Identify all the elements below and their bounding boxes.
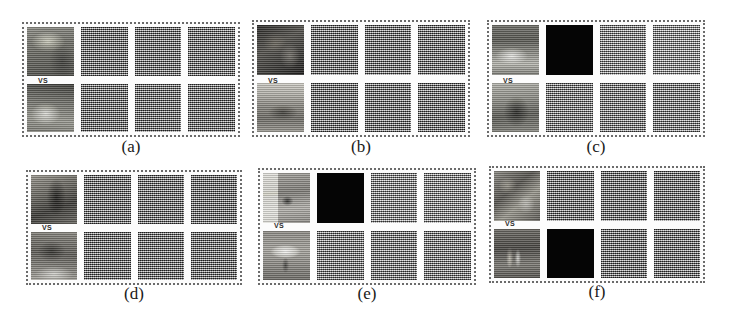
tile-f-row1-1-photo-top [494, 171, 540, 221]
panel-caption-b: (b) [252, 138, 470, 155]
tile-f-row1-2-saliency-map-1 [547, 171, 593, 221]
tile-grid-a [27, 27, 235, 132]
tile-grid-b [257, 25, 465, 132]
tile-c-row1-3-saliency-map-1 [600, 25, 647, 75]
tile-c-row2-3-saliency-map-4 [600, 83, 647, 133]
panel-grid: VS(a)VS(b)VS(c)VS(d)VS(e)VS(f) [0, 0, 731, 318]
tile-d-row2-3-saliency-map-5 [138, 232, 184, 281]
vs-label-e: VS [274, 222, 284, 229]
tile-b-row1-3-saliency-map-2 [365, 25, 412, 75]
tile-e-row2-4-saliency-map-5 [424, 231, 471, 281]
panel-caption-f: (f) [489, 283, 705, 300]
tile-a-row2-4-saliency-map-6 [188, 84, 235, 133]
tile-a-row2-3-saliency-map-5 [135, 84, 182, 133]
vs-label-d: VS [42, 224, 52, 231]
tile-a-row1-3-saliency-map-2 [135, 27, 182, 76]
tile-f-row1-3-saliency-map-2 [601, 171, 647, 221]
panel-e [258, 168, 476, 285]
tile-f-row2-1-photo-bottom [494, 229, 540, 279]
tile-e-row1-2-blank-map-1 [317, 173, 364, 223]
tile-c-row2-4-saliency-map-5 [653, 83, 700, 133]
panel-a [22, 22, 240, 137]
tile-e-row2-1-photo-bottom [263, 231, 310, 281]
tile-b-row2-4-saliency-map-6 [418, 83, 465, 133]
tile-d-row1-1-photo-top [31, 175, 77, 224]
tile-a-row2-2-saliency-map-4 [81, 84, 128, 133]
tile-a-row2-1-photo-bottom [27, 84, 74, 133]
vs-label-c: VS [503, 77, 513, 84]
panel-b [252, 20, 470, 137]
tile-c-row1-2-blank-map-1 [546, 25, 593, 75]
tile-c-row2-1-photo-bottom [492, 83, 539, 133]
panel-caption-a: (a) [22, 138, 240, 155]
panel-caption-c: (c) [487, 138, 705, 155]
tile-b-row2-1-photo-bottom [257, 83, 304, 133]
tile-grid-d [31, 175, 237, 280]
tile-b-row1-1-photo-top [257, 25, 304, 75]
vs-label-b: VS [268, 77, 278, 84]
tile-e-row1-4-saliency-map-2 [424, 173, 471, 223]
tile-e-row1-1-photo-top [263, 173, 310, 223]
tile-b-row1-2-saliency-map-1 [311, 25, 358, 75]
tile-b-row1-4-saliency-map-3 [418, 25, 465, 75]
panel-f [489, 166, 705, 283]
tile-f-row2-4-saliency-map-5 [654, 229, 700, 279]
tile-d-row1-3-saliency-map-2 [138, 175, 184, 224]
tile-a-row1-1-photo-top [27, 27, 74, 76]
tile-grid-e [263, 173, 471, 280]
figure-root: VS(a)VS(b)VS(c)VS(d)VS(e)VS(f) [0, 0, 731, 318]
vs-label-f: VS [505, 220, 515, 227]
tile-e-row2-3-saliency-map-4 [371, 231, 418, 281]
panel-c [487, 20, 705, 137]
tile-d-row2-4-saliency-map-6 [191, 232, 237, 281]
tile-b-row2-2-saliency-map-4 [311, 83, 358, 133]
tile-d-row2-1-photo-bottom [31, 232, 77, 281]
tile-f-row1-4-saliency-map-3 [654, 171, 700, 221]
tile-a-row1-4-saliency-map-3 [188, 27, 235, 76]
tile-c-row1-1-photo-top [492, 25, 539, 75]
tile-grid-c [492, 25, 700, 132]
tile-b-row2-3-saliency-map-5 [365, 83, 412, 133]
vs-label-a: VS [38, 77, 48, 84]
tile-a-row1-2-saliency-map-1 [81, 27, 128, 76]
tile-e-row1-3-saliency-map-1 [371, 173, 418, 223]
tile-c-row1-4-saliency-map-2 [653, 25, 700, 75]
panel-d [26, 170, 242, 285]
tile-d-row1-2-saliency-map-1 [84, 175, 130, 224]
tile-e-row2-2-saliency-map-3 [317, 231, 364, 281]
tile-f-row2-3-saliency-map-4 [601, 229, 647, 279]
tile-f-row2-2-blank-map-1 [547, 229, 593, 279]
panel-caption-e: (e) [258, 285, 476, 302]
tile-c-row2-2-saliency-map-3 [546, 83, 593, 133]
tile-d-row2-2-saliency-map-4 [84, 232, 130, 281]
tile-grid-f [494, 171, 700, 278]
tile-d-row1-4-saliency-map-3 [191, 175, 237, 224]
panel-caption-d: (d) [26, 285, 242, 302]
